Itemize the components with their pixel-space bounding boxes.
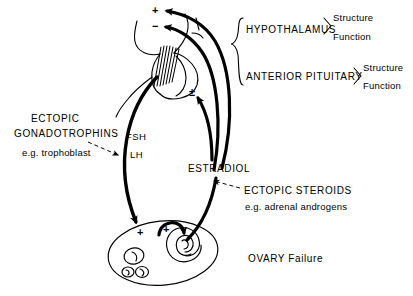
label-ectopic-steroids-line1: ECTOPIC STEROIDS xyxy=(244,185,352,196)
sign-pituitary-plus-minus: ± xyxy=(189,87,195,98)
arrow-ovary-to-estradiol xyxy=(187,178,216,240)
label-pituitary-structure: Structure xyxy=(363,62,403,73)
brace-hypothalamus-pituitary xyxy=(231,18,243,85)
label-hypothalamus: HYPOTHALAMUS xyxy=(246,24,336,35)
label-lh: LH xyxy=(130,149,143,160)
label-fsh: FSH xyxy=(126,131,146,142)
label-anterior-pituitary: ANTERIOR PITUITARY xyxy=(246,71,363,82)
label-hypothalamus-structure: Structure xyxy=(333,12,373,23)
label-ectopic-gonadotrophins-example: e.g. trophoblast xyxy=(22,147,91,158)
label-ectopic-gonadotrophins-line1: ECTOPIC xyxy=(31,113,79,124)
sign-ovary-right-positive: + xyxy=(163,224,170,235)
sign-hypothalamus-negative: − xyxy=(152,21,159,32)
arrow-ectopic-steroids-annotation xyxy=(214,181,240,188)
label-hypothalamus-function: Function xyxy=(333,31,371,42)
hypothalamus-pituitary-anatomy xyxy=(116,14,203,117)
label-ectopic-steroids-example: e.g. adrenal androgens xyxy=(245,201,347,212)
arrow-ectopic-gonadotrophins-annotation xyxy=(88,142,118,155)
sign-hypothalamus-positive: + xyxy=(152,5,159,16)
sign-ovary-left-positive: + xyxy=(137,227,144,238)
label-estradiol: ESTRADIOL xyxy=(188,163,250,174)
label-ectopic-gonadotrophins-line2: GONADOTROPHINS xyxy=(14,128,119,139)
arrow-estradiol-feedback-pituitary xyxy=(198,98,212,160)
label-ovary-failure: OVARY Failure xyxy=(248,253,323,264)
diagram-canvas: HYPOTHALAMUS Structure Function ANTERIOR… xyxy=(0,0,413,296)
label-pituitary-function: Function xyxy=(363,80,401,91)
pituitary-stalk-hatching xyxy=(154,46,179,86)
